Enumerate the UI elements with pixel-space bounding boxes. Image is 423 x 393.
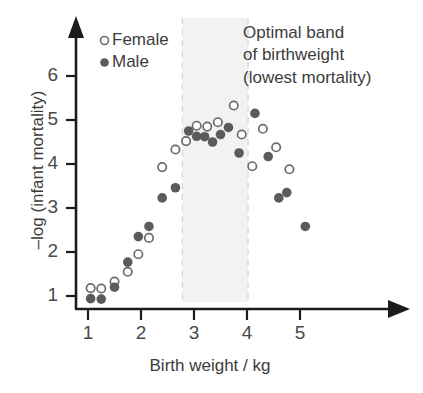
data-point-male	[282, 188, 292, 198]
optimal-band-annotation: Optimal bandof birthweight(lowest mortal…	[243, 22, 371, 89]
data-point-female	[192, 122, 200, 130]
data-point-female	[182, 137, 190, 145]
data-point-male	[274, 193, 284, 203]
y-axis-title: –log (infant mortality)	[28, 60, 48, 280]
x-tick-label: 5	[289, 322, 311, 344]
data-point-male	[134, 232, 144, 242]
data-point-female	[134, 250, 142, 258]
open-circle-icon	[97, 34, 111, 47]
data-point-female	[238, 130, 246, 138]
data-point-male	[301, 222, 311, 232]
annotation-line: (lowest mortality)	[243, 67, 371, 89]
data-point-male	[123, 257, 133, 267]
data-point-male	[110, 282, 120, 292]
data-point-male	[184, 126, 194, 136]
optimal-band-shading	[182, 18, 248, 302]
x-axis-title: Birth weight / kg	[90, 356, 330, 376]
filled-circle-icon	[97, 56, 111, 69]
data-point-male	[208, 137, 218, 147]
legend-item-male: Male	[97, 51, 169, 73]
data-point-female	[203, 122, 211, 130]
data-point-female	[86, 284, 94, 292]
data-point-female	[230, 101, 238, 109]
data-point-female	[259, 125, 267, 133]
data-point-male	[200, 132, 210, 142]
x-tick-label: 2	[130, 322, 152, 344]
x-tick-label: 3	[183, 322, 205, 344]
annotation-line: Optimal band	[243, 22, 371, 44]
x-tick-label: 1	[77, 322, 99, 344]
legend-label-male: Male	[112, 52, 149, 72]
data-point-male	[144, 222, 154, 232]
data-point-male	[86, 294, 96, 304]
data-point-male	[171, 183, 181, 193]
data-point-male	[250, 109, 260, 119]
legend-label-female: Female	[112, 30, 169, 50]
data-point-male	[263, 152, 273, 162]
chart-figure: 123456 12345 –log (infant mortality) Bir…	[0, 0, 423, 393]
data-point-male	[96, 294, 106, 304]
annotation-line: of birthweight	[243, 44, 371, 66]
data-point-female	[214, 118, 222, 126]
data-point-female	[145, 234, 153, 242]
data-point-female	[285, 165, 293, 173]
data-point-male	[234, 148, 244, 158]
data-point-female	[171, 145, 179, 153]
data-point-female	[97, 284, 105, 292]
data-point-male	[157, 193, 167, 203]
legend-item-female: Female	[97, 29, 169, 51]
x-tick-label: 4	[236, 322, 258, 344]
data-point-male	[216, 130, 226, 140]
data-point-female	[124, 268, 132, 276]
data-point-female	[272, 143, 280, 151]
data-point-female	[158, 163, 166, 171]
chart-legend: Female Male	[97, 29, 169, 73]
y-tick-label: 1	[36, 284, 58, 306]
data-point-male	[224, 123, 234, 133]
data-point-female	[248, 162, 256, 170]
